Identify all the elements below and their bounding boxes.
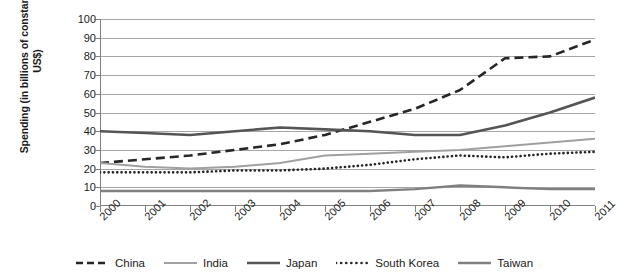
legend-item-south-korea[interactable]: South Korea (336, 257, 439, 269)
series-line-india (100, 139, 595, 169)
legend-swatch-south-korea (336, 258, 369, 268)
legend-label: Taiwan (497, 257, 533, 269)
chart-legend: ChinaIndiaJapanSouth KoreaTaiwan (0, 252, 609, 274)
y-axis-title-line2: US$) (31, 49, 43, 73)
x-axis-tick-labels: 2000200120022003200420052006200720082009… (0, 208, 609, 248)
legend-item-india[interactable]: India (164, 257, 228, 269)
legend-swatch-india (164, 258, 197, 268)
series-line-taiwan (100, 185, 595, 191)
legend-item-taiwan[interactable]: Taiwan (458, 257, 533, 269)
y-axis-title: Spending (in billions of constant 2011 U… (18, 0, 44, 156)
legend-label: Japan (286, 257, 317, 269)
legend-swatch-taiwan (458, 258, 491, 268)
series-layer (100, 19, 595, 206)
legend-label: China (115, 257, 145, 269)
legend-label: South Korea (375, 257, 439, 269)
legend-swatch-china (76, 258, 109, 268)
y-axis-tick-labels: 0102030405060708090100 (64, 0, 96, 225)
legend-label: India (203, 257, 228, 269)
legend-swatch-japan (247, 258, 280, 268)
legend-item-japan[interactable]: Japan (247, 257, 317, 269)
y-axis-title-line1: Spending (in billions of constant 2011 (18, 0, 30, 153)
x-tick-label-2011: 2011 (592, 197, 617, 222)
series-line-japan (100, 98, 595, 135)
legend-item-china[interactable]: China (76, 257, 145, 269)
